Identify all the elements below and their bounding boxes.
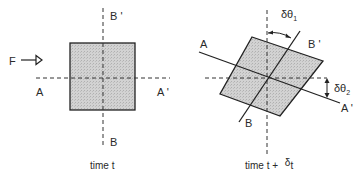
label-angle1: δθ1 — [281, 8, 297, 22]
force-arrow — [21, 56, 42, 65]
shear-deformation-diagram: F B ' A A ' B time t δθ1 δθ2 A — [0, 0, 363, 181]
caption-time-t-plus-dt: time t + δt — [245, 157, 293, 171]
right-panel: δθ1 δθ2 A B ' A ' B time t + δt — [199, 8, 353, 171]
label-A: A — [36, 86, 44, 98]
label-A-rotated: A — [200, 38, 208, 50]
label-B-prime: B ' — [110, 10, 123, 22]
label-A-prime: A ' — [157, 86, 169, 98]
label-B: B — [110, 136, 117, 148]
label-B-prime-rotated: B ' — [308, 38, 321, 50]
force-label: F — [9, 55, 16, 67]
caption-time-t: time t — [90, 160, 115, 171]
left-panel: F B ' A A ' B time t — [9, 8, 170, 171]
angle2-arrow — [325, 78, 330, 98]
label-B-rotated: B — [245, 117, 252, 129]
label-angle2: δθ2 — [334, 82, 350, 96]
label-A-prime-rotated: A ' — [341, 102, 353, 114]
angle1-arc — [268, 31, 291, 39]
